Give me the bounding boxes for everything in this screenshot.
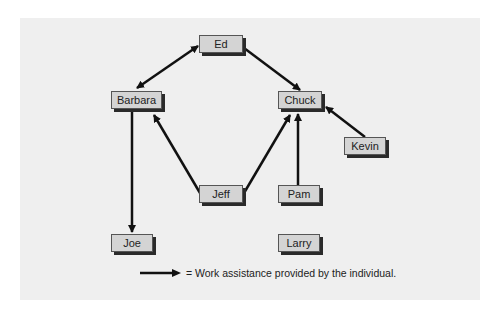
node-larry: Larry — [278, 234, 320, 252]
edge-ed-barbara — [137, 46, 198, 88]
edge-jeff-barbara — [154, 115, 200, 193]
node-chuck: Chuck — [278, 91, 322, 109]
arrow-icon — [140, 268, 182, 278]
node-barbara: Barbara — [111, 91, 162, 109]
legend: = Work assistance provided by the indivi… — [140, 267, 396, 279]
legend-text: = Work assistance provided by the indivi… — [186, 267, 396, 279]
node-pam: Pam — [278, 185, 320, 203]
edge-ed-chuck — [244, 48, 300, 90]
node-joe: Joe — [111, 234, 153, 252]
edge-kevin-chuck — [326, 107, 365, 137]
node-jeff: Jeff — [199, 185, 243, 203]
edge-jeff-chuck — [244, 115, 290, 193]
node-kevin: Kevin — [344, 137, 386, 155]
node-ed: Ed — [199, 35, 243, 53]
